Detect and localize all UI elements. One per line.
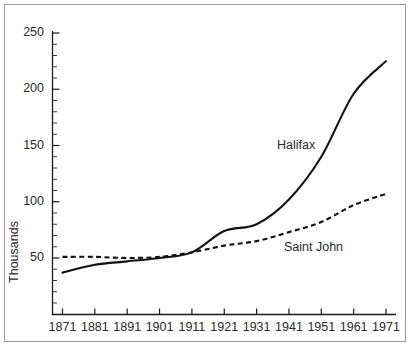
- plot-canvas: [0, 0, 411, 348]
- series-label-saint-john: Saint John: [284, 240, 343, 254]
- chart-figure: 50100150200250 1871188118911901191119211…: [0, 0, 411, 348]
- y-tick-label: 250: [10, 25, 44, 39]
- y-tick-label: 200: [10, 81, 44, 95]
- series-label-halifax: Halifax: [277, 138, 315, 152]
- x-axis-ticks: [63, 309, 387, 315]
- y-axis-ticks: [53, 33, 60, 303]
- x-tick-label: 1971: [366, 320, 406, 334]
- axis-lines: [53, 31, 397, 315]
- y-tick-label: 100: [10, 194, 44, 208]
- y-axis-title: Thousands: [7, 216, 21, 288]
- y-tick-label: 150: [10, 138, 44, 152]
